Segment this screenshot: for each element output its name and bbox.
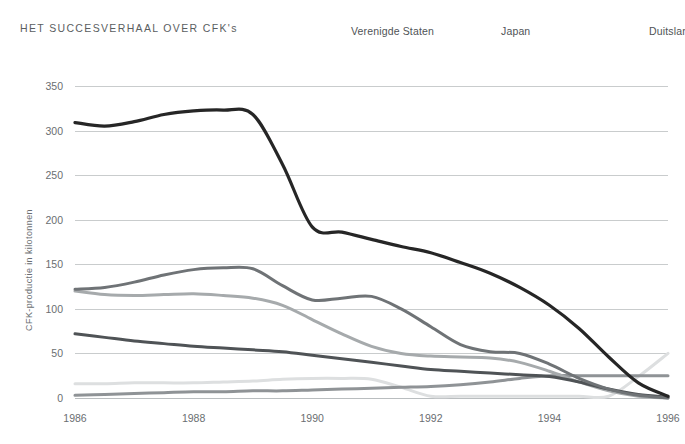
y-axis-tick-label: 350 — [45, 80, 63, 92]
x-axis-tick-label: 1992 — [419, 412, 443, 424]
x-axis-tick-label: 1988 — [182, 412, 206, 424]
y-axis-tick-label: 100 — [45, 303, 63, 315]
plot-area: 0501001502002503003501986198819901992199… — [0, 0, 685, 444]
x-axis-tick-label: 1994 — [538, 412, 562, 424]
y-axis-tick-label: 0 — [57, 392, 63, 404]
y-axis-tick-label: 250 — [45, 169, 63, 181]
y-axis-tick-label: 300 — [45, 125, 63, 137]
line-chart-svg: 0501001502002503003501986198819901992199… — [0, 0, 685, 444]
y-axis-tick-label: 150 — [45, 258, 63, 270]
y-axis-title: CFK-productie in kilotonnen — [24, 209, 34, 331]
y-axis-tick-label: 50 — [51, 347, 63, 359]
x-axis-tick-label: 1996 — [656, 412, 680, 424]
y-axis-tick-label: 200 — [45, 214, 63, 226]
x-axis-tick-label: 1990 — [301, 412, 325, 424]
x-axis-tick-label: 1986 — [63, 412, 87, 424]
series-line-verenigde-staten — [75, 109, 668, 396]
chart-container: HET SUCCESVERHAAL OVER CFK's Verenigde S… — [0, 0, 685, 444]
